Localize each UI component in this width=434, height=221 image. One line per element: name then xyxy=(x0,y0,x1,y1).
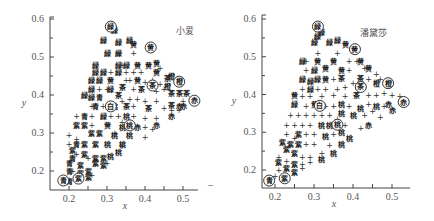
x-axis-label: x xyxy=(331,198,337,209)
color-term-label: 緑 xyxy=(334,36,342,45)
plus-marker: + xyxy=(299,92,306,101)
color-term-label: 桃 xyxy=(322,132,329,141)
plus-marker: + xyxy=(142,123,149,132)
color-term-label: 黄 xyxy=(291,91,298,100)
color-term-label: 紫 xyxy=(291,149,298,158)
color-term-label: 緑 xyxy=(115,49,123,58)
y-tick-label: 0.3 xyxy=(244,126,257,137)
color-term-label: 桃 xyxy=(126,131,133,140)
plus-marker: + xyxy=(303,66,310,75)
color-term-label: 緑 xyxy=(96,76,104,85)
plus-marker: + xyxy=(126,76,133,85)
color-term-label: 桃 xyxy=(346,134,353,143)
plus-marker: + xyxy=(287,111,294,120)
plus-marker: + xyxy=(303,111,310,120)
color-term-label: 茶 xyxy=(122,102,131,111)
color-term-label: 桃 xyxy=(104,140,111,149)
color-term-label: 桃 xyxy=(338,140,345,149)
circled-focal-label: 赤 xyxy=(189,95,200,106)
svg-text:桃: 桃 xyxy=(126,121,133,130)
y-axis-label: y xyxy=(21,97,27,108)
plus-marker: + xyxy=(299,164,306,173)
plus-marker: + xyxy=(295,111,302,120)
plus-marker: + xyxy=(299,121,306,130)
plus-marker: + xyxy=(161,104,168,113)
color-term-label: 紫 xyxy=(96,129,103,138)
x-tick-label: 0.3 xyxy=(308,191,321,202)
plus-marker: + xyxy=(307,158,314,167)
plus-marker: + xyxy=(311,140,318,149)
color-term-label: 桃 xyxy=(107,152,114,161)
color-term-label: 青 xyxy=(92,102,99,111)
color-term-label: 茶 xyxy=(337,74,346,83)
color-term-label: 緑 xyxy=(311,66,319,75)
color-term-label: 黄 xyxy=(357,57,364,66)
plus-marker: + xyxy=(311,130,318,139)
color-term-label: 赤 xyxy=(365,121,372,130)
color-term-label: 赤 xyxy=(168,112,175,121)
plus-marker: + xyxy=(130,49,137,58)
circled-focal-label: 黄 xyxy=(349,44,360,55)
svg-text:橙: 橙 xyxy=(385,79,393,88)
plus-marker: + xyxy=(130,102,137,111)
svg-text:白: 白 xyxy=(107,102,114,111)
color-term-label: 紫 xyxy=(92,140,99,149)
x-axis-label: x xyxy=(122,200,128,211)
plus-marker: + xyxy=(365,91,372,100)
color-term-label: 黄 xyxy=(130,40,137,49)
color-term-label: 茶 xyxy=(114,91,123,100)
color-term-label: 緑 xyxy=(115,68,123,77)
color-term-label: 紫 xyxy=(88,129,95,138)
color-term-label: 桃 xyxy=(373,102,380,111)
color-term-label: 茶 xyxy=(144,104,153,113)
color-term-label: 橙 xyxy=(373,79,381,88)
color-term-label: 黄 xyxy=(153,68,160,77)
plus-marker: + xyxy=(373,91,380,100)
plus-marker: + xyxy=(326,111,333,120)
plus-marker: + xyxy=(389,91,396,100)
y-tick-label: 0.2 xyxy=(32,165,45,176)
color-term-label: 緑 xyxy=(307,85,315,94)
y-tick-label: 0.6 xyxy=(244,13,257,24)
svg-text:紫: 紫 xyxy=(281,174,288,183)
plus-marker: + xyxy=(283,121,290,130)
color-term-label: 黄 xyxy=(153,59,160,68)
y-tick-label: 0.2 xyxy=(244,164,257,175)
color-term-label: 青 xyxy=(81,112,88,121)
y-tick-label: 0.5 xyxy=(32,51,45,62)
plus-marker: + xyxy=(346,57,353,66)
svg-text:白: 白 xyxy=(316,101,323,110)
svg-text:青: 青 xyxy=(60,176,67,185)
color-term-label: 黄 xyxy=(145,61,152,70)
plus-marker: + xyxy=(377,113,384,122)
color-term-label: 緑 xyxy=(314,75,322,84)
y-tick-label: 0.3 xyxy=(32,127,45,138)
color-term-label: 緑 xyxy=(100,36,108,45)
plus-marker: + xyxy=(342,83,349,92)
color-term-label: 桃 xyxy=(318,121,325,130)
plus-marker: + xyxy=(357,124,364,133)
plus-marker: + xyxy=(365,75,372,84)
circled-focal-label: 白 xyxy=(105,101,116,112)
circled-focal-label: 青 xyxy=(58,175,69,186)
color-term-label: 黄 xyxy=(134,61,141,70)
y-axis-label: y xyxy=(231,95,237,106)
color-term-label: 桃 xyxy=(338,109,345,118)
color-term-label: 赤 xyxy=(180,102,187,111)
color-term-label: 桃 xyxy=(111,131,118,140)
svg-text:緑: 緑 xyxy=(314,22,322,31)
color-term-label: 紫 xyxy=(85,173,92,182)
color-term-label: 桃 xyxy=(338,100,345,109)
svg-text:茶: 茶 xyxy=(356,82,365,91)
color-term-label: 紫 xyxy=(81,140,88,149)
circled-focal-label: 茶 xyxy=(147,80,158,91)
color-term-label: 紫 xyxy=(275,158,282,167)
color-term-label: 緑 xyxy=(299,57,307,66)
plus-marker: + xyxy=(318,111,325,120)
circled-focal-label: 黄 xyxy=(145,42,156,53)
plus-marker: + xyxy=(107,112,114,121)
color-term-label: 青 xyxy=(96,93,103,102)
svg-text:紫: 紫 xyxy=(75,174,82,183)
panel-title: 小爱 xyxy=(176,26,194,36)
color-term-label: 赤 xyxy=(153,121,160,130)
